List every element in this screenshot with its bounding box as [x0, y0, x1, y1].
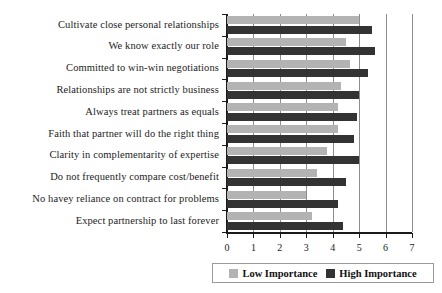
category-label: Faith that partner will do the right thi…: [0, 123, 224, 145]
bar-high-importance: [227, 200, 338, 208]
x-tick: [386, 233, 387, 238]
y-tick: [222, 232, 227, 233]
bar-chart: Cultivate close personal relationshipsWe…: [0, 0, 442, 293]
bar-group: [227, 167, 412, 189]
bar-group: [227, 123, 412, 145]
y-tick: [222, 58, 227, 59]
category-label: Always treat partners as equals: [0, 101, 224, 123]
category-label: Clarity in complementarity of expertise: [0, 145, 224, 167]
category-axis-labels: Cultivate close personal relationshipsWe…: [0, 14, 224, 232]
x-tick-label: 2: [277, 242, 282, 253]
bar-low-importance: [227, 147, 327, 155]
y-tick: [222, 188, 227, 189]
bar-high-importance: [227, 222, 343, 230]
bar-group: [227, 58, 412, 80]
legend-label-low: Low Importance: [242, 268, 317, 279]
y-tick: [222, 36, 227, 37]
bar-high-importance: [227, 47, 375, 55]
legend-item-high: High Importance: [326, 268, 416, 279]
bar-high-importance: [227, 178, 346, 186]
x-tick: [359, 233, 360, 238]
x-tick: [253, 233, 254, 238]
bar-low-importance: [227, 169, 317, 177]
bar-low-importance: [227, 82, 341, 90]
category-label: We know exactly our role: [0, 36, 224, 58]
y-tick: [222, 79, 227, 80]
x-tick-label: 3: [304, 242, 309, 253]
legend-item-low: Low Importance: [229, 268, 317, 279]
legend-swatch-high-icon: [326, 269, 335, 278]
bar-low-importance: [227, 125, 338, 133]
category-label: Expect partnership to last forever: [0, 210, 224, 232]
x-tick: [227, 233, 228, 238]
x-tick-label: 7: [410, 242, 415, 253]
category-label: Committed to win-win negotiations: [0, 58, 224, 80]
legend-label-high: High Importance: [339, 268, 416, 279]
bar-low-importance: [227, 16, 359, 24]
bar-high-importance: [227, 91, 359, 99]
x-tick: [306, 233, 307, 238]
category-label: Cultivate close personal relationships: [0, 14, 224, 36]
bar-group: [227, 145, 412, 167]
bar-group: [227, 14, 412, 36]
x-tick: [412, 233, 413, 238]
plot-area: 01234567: [227, 14, 412, 232]
x-tick: [280, 233, 281, 238]
bar-rows: [227, 14, 412, 232]
bar-low-importance: [227, 60, 350, 68]
bar-low-importance: [227, 191, 306, 199]
bar-group: [227, 210, 412, 232]
x-tick: [333, 233, 334, 238]
bar-low-importance: [227, 103, 338, 111]
y-tick: [222, 145, 227, 146]
bar-high-importance: [227, 26, 372, 34]
bar-group: [227, 101, 412, 123]
category-label: Do not frequently compare cost/benefit: [0, 167, 224, 189]
bar-high-importance: [227, 156, 359, 164]
legend-swatch-low-icon: [229, 269, 238, 278]
category-label: No havey reliance on contract for proble…: [0, 188, 224, 210]
bar-high-importance: [227, 113, 357, 121]
y-tick: [222, 101, 227, 102]
x-tick-label: 6: [383, 242, 388, 253]
category-label: Relationships are not strictly business: [0, 79, 224, 101]
x-tick-label: 0: [225, 242, 230, 253]
bar-high-importance: [227, 135, 354, 143]
y-tick: [222, 167, 227, 168]
bar-group: [227, 79, 412, 101]
y-tick: [222, 14, 227, 15]
bar-low-importance: [227, 212, 312, 220]
x-tick-label: 1: [251, 242, 256, 253]
bar-group: [227, 188, 412, 210]
gridline: [412, 14, 413, 232]
x-tick-label: 4: [330, 242, 335, 253]
bar-low-importance: [227, 38, 346, 46]
bar-group: [227, 36, 412, 58]
chart-legend: Low Importance High Importance: [212, 263, 434, 283]
x-tick-label: 5: [357, 242, 362, 253]
y-tick: [222, 123, 227, 124]
bar-high-importance: [227, 69, 368, 77]
y-tick: [222, 210, 227, 211]
